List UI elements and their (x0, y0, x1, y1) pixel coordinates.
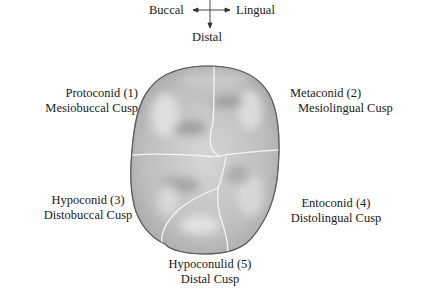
cusp-description: Mesiolingual Cusp (290, 101, 393, 116)
cusp-name: Entoconid (4) (284, 196, 388, 211)
cusp-name: Protoconid (1) (26, 86, 138, 101)
cusp-description: Distal Cusp (150, 272, 270, 287)
cusp-name: Hypoconulid (5) (150, 257, 270, 272)
cusp-description: Distobuccal Cusp (38, 208, 138, 223)
cusp-description: Mesiobuccal Cusp (26, 101, 138, 116)
cusp-label-metaconid: Metaconid (2) Mesiolingual Cusp (290, 86, 393, 116)
tooth-diagram (0, 0, 424, 297)
cusp-label-protoconid: Protoconid (1) Mesiobuccal Cusp (26, 86, 138, 116)
cusp-name: Hypoconid (3) (38, 193, 138, 208)
molar-occlusal-surface (131, 66, 279, 254)
cusp-label-hypoconulid: Hypoconulid (5) Distal Cusp (150, 257, 270, 287)
cusp-label-entoconid: Entoconid (4) Distolingual Cusp (284, 196, 388, 226)
cusp-name: Metaconid (2) (290, 86, 393, 101)
direction-arrows-icon (193, 0, 230, 28)
cusp-description: Distolingual Cusp (284, 211, 388, 226)
cusp-label-hypoconid: Hypoconid (3) Distobuccal Cusp (38, 193, 138, 223)
